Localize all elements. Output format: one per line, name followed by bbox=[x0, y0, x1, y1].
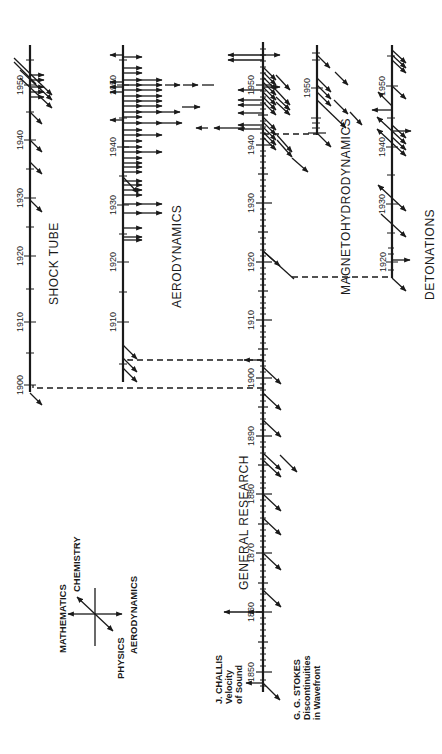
shock-tube-timeline: 1900 1910 1920 1930 1940 1950 SHOCK TUBE bbox=[14, 45, 61, 405]
svg-text:1930: 1930 bbox=[246, 193, 256, 213]
magnetohydrodynamics-timeline: 1950 MAGNETOHYDRODYNAMICS bbox=[302, 45, 362, 295]
svg-text:1950: 1950 bbox=[15, 75, 25, 95]
svg-text:1920: 1920 bbox=[15, 246, 25, 266]
connector-general-to-shock-tube bbox=[33, 385, 263, 388]
detonations-label: DETONATIONS bbox=[423, 209, 437, 300]
connector-general-to-aerodynamics bbox=[128, 357, 263, 360]
svg-text:1940: 1940 bbox=[246, 135, 256, 155]
aerodynamics-timeline: 1910 1920 1930 1940 1950 AERODYNAMICS bbox=[108, 45, 214, 382]
legend-aerodynamics-label: AERODYNAMICS bbox=[128, 576, 139, 654]
svg-text:1900: 1900 bbox=[15, 375, 25, 395]
svg-text:Velocity: Velocity bbox=[224, 670, 234, 704]
svg-text:1920: 1920 bbox=[246, 252, 256, 272]
mhd-year-label: 1950 bbox=[302, 78, 312, 98]
svg-text:J. CHALLIS: J. CHALLIS bbox=[214, 655, 224, 704]
legend-physics-arrow bbox=[95, 614, 113, 631]
svg-text:1920: 1920 bbox=[378, 252, 388, 272]
shock-tube-label: SHOCK TUBE bbox=[47, 222, 61, 305]
svg-text:1940: 1940 bbox=[377, 137, 387, 157]
aerodynamics-arrows bbox=[110, 55, 214, 382]
svg-text:1950: 1950 bbox=[246, 75, 256, 95]
svg-text:Discontinuities: Discontinuities bbox=[302, 655, 312, 720]
research-timeline-diagram: 1850 1860 1870 1880 1890 1900 1910 1920 … bbox=[0, 0, 442, 754]
svg-text:1900: 1900 bbox=[246, 368, 256, 388]
svg-text:1910: 1910 bbox=[246, 310, 256, 330]
direction-legend: MATHEMATICS CHEMISTRY PHYSICS AERODYNAMI… bbox=[57, 536, 139, 679]
shock-tube-year-labels: 1900 1910 1920 1930 1940 1950 bbox=[15, 75, 25, 395]
aerodynamics-year-labels: 1910 1920 1930 1940 1950 bbox=[108, 75, 118, 332]
svg-text:1930: 1930 bbox=[108, 195, 118, 215]
legend-physics-label: PHYSICS bbox=[115, 637, 126, 679]
general-research-label: GENERAL RESEARCH bbox=[237, 455, 251, 590]
svg-text:1920: 1920 bbox=[108, 252, 118, 272]
svg-text:1850: 1850 bbox=[246, 662, 256, 682]
svg-text:1890: 1890 bbox=[246, 426, 256, 446]
svg-text:1910: 1910 bbox=[15, 312, 25, 332]
svg-text:G. G. STOKES: G. G. STOKES bbox=[292, 659, 302, 720]
challis-annotation: J. CHALLIS Velocity of Sound bbox=[214, 655, 244, 704]
svg-text:1910: 1910 bbox=[108, 312, 118, 332]
svg-text:1940: 1940 bbox=[108, 137, 118, 157]
svg-text:in Wavefront: in Wavefront bbox=[312, 666, 322, 720]
magnetohydrodynamics-label: MAGNETOHYDRODYNAMICS bbox=[339, 118, 353, 295]
svg-text:of Sound: of Sound bbox=[234, 665, 244, 704]
legend-chemistry-label: CHEMISTRY bbox=[71, 536, 82, 592]
svg-text:1940: 1940 bbox=[15, 130, 25, 150]
svg-text:1930: 1930 bbox=[15, 188, 25, 208]
legend-chemistry-arrow bbox=[77, 597, 95, 614]
aerodynamics-label: AERODYNAMICS bbox=[170, 205, 184, 308]
detonations-timeline: 1920 1930 1940 1950 DETONATIONS bbox=[372, 45, 437, 300]
legend-mathematics-label: MATHEMATICS bbox=[57, 584, 68, 653]
detonations-year-labels: 1920 1930 1940 1950 bbox=[377, 76, 388, 272]
stokes-annotation: G. G. STOKES Discontinuities in Wavefron… bbox=[292, 655, 322, 720]
general-research-timeline: 1850 1860 1870 1880 1890 1900 1910 1920 … bbox=[196, 42, 308, 700]
svg-text:1930: 1930 bbox=[377, 194, 387, 214]
